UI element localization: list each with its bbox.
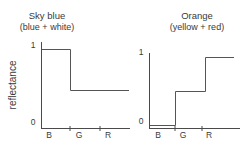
y-tick-label-1: 1 bbox=[31, 40, 36, 50]
x-tick-label-g: G bbox=[76, 130, 83, 140]
x-tick-label-b: B bbox=[155, 130, 161, 140]
chart-orange: Orange (yellow + red) 1 0 B G R bbox=[139, 10, 240, 140]
reflectance-step-line bbox=[42, 50, 130, 91]
x-tick-label-g: G bbox=[180, 130, 187, 140]
y-tick-label-1: 1 bbox=[139, 47, 144, 57]
reflectance-step-line bbox=[150, 58, 235, 126]
y-tick-label-0: 0 bbox=[139, 116, 144, 126]
x-tick-label-r: R bbox=[105, 130, 111, 140]
chart-title: Orange bbox=[181, 10, 213, 21]
chart-sky-blue: Sky blue (blue + white) 1 0 reflectance … bbox=[7, 10, 130, 140]
figure: Sky blue (blue + white) 1 0 reflectance … bbox=[0, 0, 245, 146]
chart-title: Sky blue bbox=[29, 10, 65, 21]
x-tick-label-b: B bbox=[46, 130, 52, 140]
y-axis-label: reflectance bbox=[7, 60, 18, 109]
chart-subtitle: (yellow + red) bbox=[170, 22, 224, 32]
x-tick-label-r: R bbox=[206, 130, 212, 140]
y-tick-label-0: 0 bbox=[31, 117, 36, 127]
chart-subtitle: (blue + white) bbox=[20, 22, 74, 32]
